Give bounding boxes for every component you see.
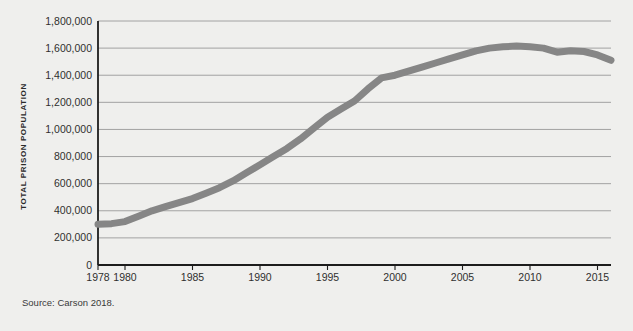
plot-area: [0, 0, 633, 331]
source-note: Source: Carson 2018.: [22, 297, 114, 308]
data-series-line: [98, 46, 611, 224]
chart-figure: TOTAL PRISON POPULATION 0200,000400,0006…: [0, 0, 633, 331]
